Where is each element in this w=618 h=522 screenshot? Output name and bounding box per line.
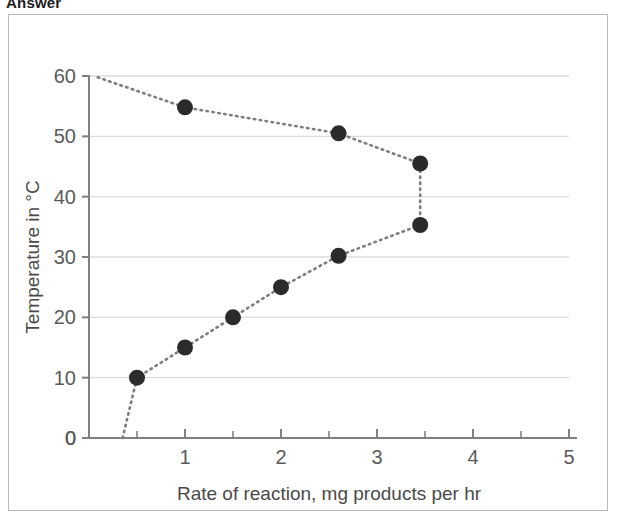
page-title: Answer	[6, 0, 61, 11]
x-tick-label: 4	[467, 446, 478, 468]
reaction-rate-temperature-chart: 0102030405060123450Rate of reaction, mg …	[9, 15, 609, 512]
data-point-marker	[225, 309, 241, 325]
data-point-marker	[177, 340, 193, 356]
y-axis-title: Temperature in °C	[22, 180, 43, 333]
data-point-marker	[273, 279, 289, 295]
x-axis-title: Rate of reaction, mg products per hr	[177, 483, 482, 504]
data-point-marker	[412, 217, 428, 233]
data-point-marker	[412, 155, 428, 171]
x-tick-label-zero: 0	[65, 427, 76, 449]
x-tick-label: 3	[371, 446, 382, 468]
y-tick-label: 30	[54, 246, 76, 268]
x-tick-label: 2	[275, 446, 286, 468]
x-tick-label: 1	[179, 446, 190, 468]
y-tick-label: 50	[54, 125, 76, 147]
data-point-marker	[331, 125, 347, 141]
data-point-marker	[177, 99, 193, 115]
y-tick-label: 20	[54, 306, 76, 328]
x-tick-label: 5	[563, 446, 574, 468]
y-tick-label: 60	[54, 65, 76, 87]
y-tick-label: 10	[54, 367, 76, 389]
figure-frame: 0102030405060123450Rate of reaction, mg …	[8, 14, 608, 511]
chart-plot-area: 0102030405060123450Rate of reaction, mg …	[22, 65, 577, 504]
y-tick-label: 40	[54, 186, 76, 208]
data-point-marker	[129, 370, 145, 386]
data-point-marker	[331, 248, 347, 264]
